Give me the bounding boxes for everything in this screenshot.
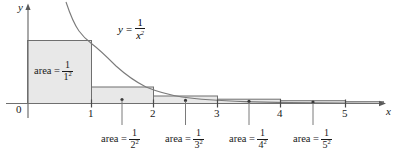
area-rectangles — [28, 41, 384, 104]
area-denominator-exponent-3: 2 — [199, 138, 202, 145]
area-equals-3: = — [185, 134, 191, 145]
area-numerator-4: 1 — [259, 128, 266, 139]
curve-equation-equals: = — [126, 24, 132, 35]
area-fraction-4: 1 42 — [257, 128, 267, 151]
area-fraction-2: 1 22 — [129, 128, 139, 151]
area-denominator-exponent-4: 2 — [263, 138, 266, 145]
area-numerator-3: 1 — [195, 128, 202, 139]
area-denominator-4: 42 — [257, 140, 267, 151]
x-tick-label-1: 1 — [88, 108, 94, 119]
x-tick-label-4: 4 — [277, 108, 283, 119]
curve-equation-fraction: 1 x2 — [135, 17, 145, 41]
x-tick-label-3: 3 — [214, 108, 220, 119]
area-denominator-exponent-1: 2 — [68, 70, 71, 77]
area-denominator-2: 22 — [129, 140, 139, 151]
area-label-1: area = 1 12 — [34, 60, 73, 83]
area-numerator-5: 1 — [323, 128, 330, 139]
curve-equation-numerator: 1 — [136, 17, 143, 28]
curve-equation-denominator: x2 — [135, 30, 145, 41]
curve-equation-denominator-exponent: 2 — [141, 28, 144, 35]
area-numerator-1: 1 — [64, 60, 71, 71]
y-axis-label: y — [18, 2, 23, 13]
area-label-2: area = 1 22 — [101, 128, 140, 151]
area-denominator-3: 32 — [193, 140, 203, 151]
area-word-4: area — [229, 134, 246, 145]
area-denominator-exponent-2: 2 — [135, 138, 138, 145]
area-denominator-exponent-5: 2 — [327, 138, 330, 145]
area-word-2: area — [101, 134, 118, 145]
figure-canvas: y x 0 1 2 3 4 5 y = 1 x2 area = 1 12 are… — [0, 0, 395, 154]
area-equals-4: = — [249, 134, 255, 145]
area-fraction-3: 1 32 — [193, 128, 203, 151]
origin-label: 0 — [16, 104, 22, 115]
curve-equation-lhs: y — [118, 24, 123, 35]
x-tick-label-2: 2 — [150, 108, 156, 119]
x-tick-label-5: 5 — [342, 108, 348, 119]
x-axis-label: x — [386, 106, 391, 117]
area-fraction-5: 1 52 — [321, 128, 331, 151]
area-fraction-1: 1 12 — [62, 60, 72, 83]
area-label-5: area = 1 52 — [293, 128, 332, 151]
area-numerator-2: 1 — [131, 128, 138, 139]
area-equals-5: = — [313, 134, 319, 145]
area-label-4: area = 1 42 — [229, 128, 268, 151]
area-equals-2: = — [121, 134, 127, 145]
area-denominator-5: 52 — [321, 140, 331, 151]
area-denominator-1: 12 — [62, 72, 72, 83]
area-equals-1: = — [54, 66, 60, 77]
area-label-3: area = 1 32 — [165, 128, 204, 151]
area-word-1: area — [34, 66, 51, 77]
area-word-5: area — [293, 134, 310, 145]
area-word-3: area — [165, 134, 182, 145]
curve-equation-label: y = 1 x2 — [118, 17, 145, 41]
